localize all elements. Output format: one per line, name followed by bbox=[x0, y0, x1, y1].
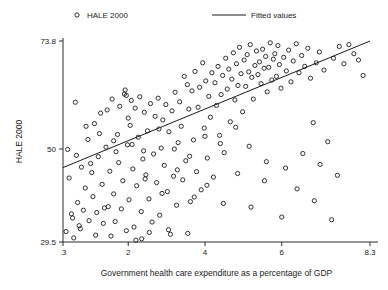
data-point bbox=[94, 233, 98, 237]
data-point bbox=[161, 118, 165, 122]
data-point bbox=[148, 102, 152, 106]
data-point bbox=[213, 81, 217, 85]
data-point bbox=[141, 157, 145, 161]
data-point bbox=[171, 174, 175, 178]
data-point bbox=[295, 187, 299, 191]
data-point bbox=[194, 170, 198, 174]
data-point bbox=[83, 186, 87, 190]
data-point bbox=[282, 55, 286, 59]
data-point bbox=[73, 100, 77, 104]
data-point bbox=[342, 62, 346, 66]
data-point bbox=[205, 183, 209, 187]
data-point bbox=[254, 49, 258, 53]
data-point bbox=[237, 45, 241, 49]
data-point bbox=[156, 96, 160, 100]
data-point bbox=[125, 143, 129, 147]
data-point bbox=[284, 69, 288, 73]
data-point bbox=[139, 210, 143, 214]
data-point bbox=[178, 100, 182, 104]
data-point bbox=[153, 114, 157, 118]
chart-axes: 73.85029.5.32468.3 bbox=[40, 37, 378, 257]
data-point bbox=[347, 43, 351, 47]
legend-marker-hale-icon bbox=[75, 13, 79, 17]
data-point bbox=[330, 218, 334, 222]
y-tick-label-2: 29.5 bbox=[40, 238, 56, 247]
fitted-line bbox=[63, 41, 370, 168]
data-point bbox=[276, 43, 280, 47]
data-point bbox=[187, 107, 191, 111]
scatter-chart: HALE 2000Fitted values 73.85029.5.32468.… bbox=[0, 0, 388, 290]
data-point bbox=[121, 179, 125, 183]
data-point bbox=[256, 72, 260, 76]
data-point bbox=[97, 131, 101, 135]
data-point bbox=[273, 52, 277, 56]
data-point bbox=[114, 150, 118, 154]
data-point bbox=[267, 65, 271, 69]
data-point bbox=[117, 161, 121, 165]
data-point bbox=[67, 176, 71, 180]
data-point bbox=[89, 161, 93, 165]
data-point bbox=[81, 208, 85, 212]
data-point bbox=[224, 56, 228, 60]
data-point bbox=[72, 236, 76, 240]
data-point bbox=[221, 73, 225, 77]
data-point bbox=[105, 108, 109, 112]
data-point bbox=[196, 105, 200, 109]
data-point bbox=[208, 115, 212, 119]
data-point bbox=[75, 200, 79, 204]
data-point bbox=[236, 83, 240, 87]
data-point bbox=[170, 109, 174, 113]
data-point bbox=[234, 125, 238, 129]
data-point bbox=[318, 162, 322, 166]
data-point bbox=[249, 205, 253, 209]
data-point bbox=[99, 111, 103, 115]
data-point bbox=[218, 141, 222, 145]
data-point bbox=[231, 51, 235, 55]
data-point bbox=[248, 43, 252, 47]
data-point bbox=[173, 90, 177, 94]
data-point bbox=[188, 200, 192, 204]
data-point bbox=[191, 138, 195, 142]
data-point bbox=[179, 124, 183, 128]
data-point bbox=[250, 75, 254, 79]
data-point bbox=[239, 72, 243, 76]
data-point bbox=[147, 197, 151, 201]
data-point bbox=[210, 71, 214, 75]
data-point bbox=[253, 63, 257, 67]
data-point bbox=[264, 54, 268, 58]
data-point bbox=[110, 97, 114, 101]
data-point bbox=[188, 154, 192, 158]
data-point bbox=[335, 173, 339, 177]
data-point bbox=[70, 216, 74, 220]
data-point bbox=[301, 151, 305, 155]
data-point bbox=[317, 50, 321, 54]
data-point bbox=[251, 97, 255, 101]
data-point bbox=[86, 137, 90, 141]
data-point bbox=[165, 190, 169, 194]
data-point bbox=[79, 165, 83, 169]
data-point bbox=[247, 144, 251, 148]
legend-label-fitted: Fitted values bbox=[251, 11, 296, 20]
data-point bbox=[144, 173, 148, 177]
data-point bbox=[201, 61, 205, 65]
data-point bbox=[172, 147, 176, 151]
data-point bbox=[66, 147, 70, 151]
data-point bbox=[190, 89, 194, 93]
data-point bbox=[245, 53, 249, 57]
data-point bbox=[174, 203, 178, 207]
chart-legend: HALE 2000Fitted values bbox=[75, 11, 296, 20]
data-point bbox=[118, 104, 122, 108]
data-point bbox=[100, 182, 104, 186]
data-point bbox=[337, 44, 341, 48]
x-tick-label-1: 2 bbox=[126, 248, 131, 257]
data-point bbox=[126, 116, 130, 120]
data-point bbox=[234, 62, 238, 66]
data-point bbox=[130, 142, 134, 146]
plot-area: HALE 2000Fitted values 73.85029.5.32468.… bbox=[0, 0, 388, 290]
data-point bbox=[271, 57, 275, 61]
data-point bbox=[159, 146, 163, 150]
data-point bbox=[123, 88, 127, 92]
data-point bbox=[143, 177, 147, 181]
data-point bbox=[227, 67, 231, 71]
data-point bbox=[219, 92, 223, 96]
